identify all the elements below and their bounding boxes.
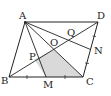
label-c: C xyxy=(86,76,94,87)
tick-mark-dn xyxy=(93,36,97,37)
label-p: P xyxy=(29,51,36,62)
label-o: O xyxy=(50,37,58,48)
label-d: D xyxy=(97,10,105,21)
tick-mark-nc xyxy=(85,63,89,64)
point-a-dot xyxy=(24,21,26,23)
label-q: Q xyxy=(67,27,75,38)
label-m: M xyxy=(43,79,53,90)
label-b: B xyxy=(1,75,8,86)
label-a: A xyxy=(18,10,27,21)
segment-am xyxy=(25,22,46,77)
geometry-diagram: A D B C M N O P Q xyxy=(0,0,111,96)
label-n: N xyxy=(94,45,103,56)
